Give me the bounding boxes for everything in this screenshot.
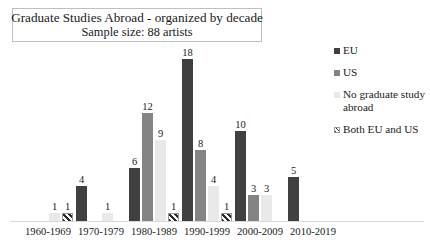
bar-value-label-us-1980-1989: 12 <box>142 101 153 112</box>
bar-slot-both-eu-and-us: 1 <box>221 46 232 222</box>
bar-slot-no-graduate-study-abroad <box>314 46 325 222</box>
bar-value-label-no-graduate-study-abroad-1960-1969: 1 <box>52 201 57 212</box>
bar-value-label-us-2000-2009: 3 <box>251 183 256 194</box>
bar-group-1980-1989: 61291 <box>129 46 179 222</box>
bar-slot-both-eu-and-us <box>115 46 126 222</box>
legend-item-us[interactable]: US <box>334 66 428 79</box>
bar-value-label-no-graduate-study-abroad-1980-1989: 9 <box>158 128 163 139</box>
bar-slot-us <box>36 46 47 222</box>
bar-group-1990-1999: 18841 <box>182 46 232 222</box>
bar-value-label-eu-1980-1989: 6 <box>132 156 137 167</box>
bar-value-label-both-eu-and-us-1980-1989: 1 <box>171 201 176 212</box>
bar-slot-both-eu-and-us: 1 <box>168 46 179 222</box>
legend-swatch-no-graduate-study-abroad-icon <box>334 92 340 98</box>
legend-swatch-both-eu-and-us-icon <box>334 127 340 133</box>
bar-slot-both-eu-and-us: 1 <box>62 46 73 222</box>
bar-slot-no-graduate-study-abroad: 4 <box>208 46 219 222</box>
legend-label-eu: EU <box>343 44 358 57</box>
bar-slot-eu <box>23 46 34 222</box>
bar-no-graduate-study-abroad-2000-2009[interactable] <box>261 195 272 222</box>
bar-value-label-eu-1990-1999: 18 <box>182 47 193 58</box>
x-axis-label-2010-2019: 2010-2019 <box>278 226 348 238</box>
bar-slot-us: 8 <box>195 46 206 222</box>
bar-group-bars: 11 <box>23 46 73 222</box>
legend-label-no-graduate-study-abroad: No graduate study abroad <box>343 88 428 114</box>
bar-group-2010-2019: 5 <box>288 46 338 222</box>
bar-us-2000-2009[interactable] <box>248 195 259 222</box>
plot-area: 1141612911884110335 <box>10 46 330 222</box>
legend-item-no-graduate-study-abroad[interactable]: No graduate study abroad <box>334 88 428 114</box>
legend-swatch-eu-icon <box>334 48 340 54</box>
bar-slot-no-graduate-study-abroad: 1 <box>49 46 60 222</box>
bar-eu-2010-2019[interactable] <box>288 177 299 222</box>
bar-chart: Graduate Studies Abroad - organized by d… <box>0 0 430 248</box>
bar-group-bars: 1033 <box>235 46 285 222</box>
bar-value-label-no-graduate-study-abroad-1970-1979: 1 <box>105 201 110 212</box>
chart-legend: EU US No graduate study abroad Both EU a… <box>334 44 428 145</box>
bar-slot-us: 12 <box>142 46 153 222</box>
bar-no-graduate-study-abroad-1980-1989[interactable] <box>155 140 166 222</box>
bar-value-label-both-eu-and-us-1960-1969: 1 <box>65 201 70 212</box>
chart-title-box: Graduate Studies Abroad - organized by d… <box>12 8 262 42</box>
legend-label-both-eu-and-us: Both EU and US <box>343 123 419 136</box>
bar-eu-2000-2009[interactable] <box>235 131 246 222</box>
legend-item-eu[interactable]: EU <box>334 44 428 57</box>
bar-slot-eu: 18 <box>182 46 193 222</box>
chart-subtitle: Sample size: 88 artists <box>81 25 192 39</box>
bar-us-1980-1989[interactable] <box>142 113 153 222</box>
bar-slot-us: 3 <box>248 46 259 222</box>
bar-group-bars: 61291 <box>129 46 179 222</box>
bar-slot-eu: 6 <box>129 46 140 222</box>
bar-group-1960-1969: 11 <box>23 46 73 222</box>
bar-slot-no-graduate-study-abroad: 3 <box>261 46 272 222</box>
bar-slot-us <box>301 46 312 222</box>
bar-no-graduate-study-abroad-1990-1999[interactable] <box>208 186 219 222</box>
bar-slot-both-eu-and-us <box>274 46 285 222</box>
bar-eu-1970-1979[interactable] <box>76 186 87 222</box>
bar-slot-eu: 4 <box>76 46 87 222</box>
bar-eu-1980-1989[interactable] <box>129 168 140 222</box>
legend-label-us: US <box>343 66 357 79</box>
bar-slot-eu: 5 <box>288 46 299 222</box>
bar-value-label-eu-2000-2009: 10 <box>235 119 246 130</box>
bar-value-label-eu-1970-1979: 4 <box>79 174 84 185</box>
legend-item-both-eu-and-us[interactable]: Both EU and US <box>334 123 428 136</box>
bar-group-bars: 41 <box>76 46 126 222</box>
bar-slot-us <box>89 46 100 222</box>
bar-us-1990-1999[interactable] <box>195 150 206 222</box>
legend-swatch-us-icon <box>334 70 340 76</box>
bar-value-label-eu-2010-2019: 5 <box>291 165 296 176</box>
page-title: Graduate Studies Abroad - organized by d… <box>11 10 263 25</box>
bar-value-label-no-graduate-study-abroad-1990-1999: 4 <box>211 174 216 185</box>
bar-value-label-us-1990-1999: 8 <box>198 138 203 149</box>
bar-value-label-both-eu-and-us-1990-1999: 1 <box>224 201 229 212</box>
bar-slot-eu: 10 <box>235 46 246 222</box>
bar-slot-no-graduate-study-abroad: 9 <box>155 46 166 222</box>
bar-group-1970-1979: 41 <box>76 46 126 222</box>
bar-group-2000-2009: 1033 <box>235 46 285 222</box>
bar-slot-no-graduate-study-abroad: 1 <box>102 46 113 222</box>
bar-group-bars: 18841 <box>182 46 232 222</box>
axis-baseline <box>10 221 424 222</box>
bar-eu-1990-1999[interactable] <box>182 59 193 222</box>
bar-value-label-no-graduate-study-abroad-2000-2009: 3 <box>264 183 269 194</box>
bar-group-bars: 5 <box>288 46 338 222</box>
